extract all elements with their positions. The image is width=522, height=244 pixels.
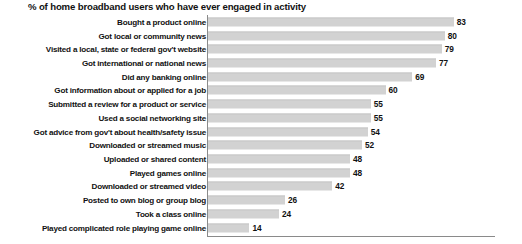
bar (208, 72, 412, 81)
bar (208, 141, 362, 150)
category-label: Got advice from gov't about health/safet… (34, 127, 206, 136)
category-label: Submitted a review for a product or serv… (48, 100, 206, 109)
bar (208, 127, 368, 136)
bar (208, 45, 442, 54)
chart-title: % of home broadband users who have ever … (28, 1, 306, 12)
bar-row: Got international or national news77 (0, 56, 522, 70)
bar-fill (208, 17, 454, 26)
bar (208, 196, 285, 205)
bar-row: Played complicated role playing game onl… (0, 221, 522, 235)
category-label: Posted to own blog or group blog (83, 196, 206, 205)
bar-value-label: 77 (439, 58, 448, 68)
bar-value-label: 48 (353, 168, 362, 178)
bar-row: Used a social networking site55 (0, 111, 522, 125)
bar-row: Downloaded or streamed music52 (0, 138, 522, 152)
category-label: Downloaded or streamed video (92, 182, 206, 191)
bar-value-label: 52 (365, 140, 374, 150)
bar-fill (208, 31, 445, 40)
bar-row: Downloaded or streamed video42 (0, 180, 522, 194)
bar-row: Did any banking online69 (0, 70, 522, 84)
bar (208, 223, 249, 232)
bar-fill (208, 223, 249, 232)
y-axis-line (207, 15, 208, 236)
bar-row: Got local or community news80 (0, 29, 522, 43)
bar-row: Got advice from gov't about health/safet… (0, 125, 522, 139)
bar-row: Played games online48 (0, 166, 522, 180)
category-label: Got information about or applied for a j… (54, 86, 206, 95)
bar-row: Posted to own blog or group blog26 (0, 193, 522, 207)
bar-fill (208, 141, 362, 150)
category-label: Did any banking online (122, 72, 206, 81)
bar-value-label: 55 (374, 99, 383, 109)
bar-fill (208, 127, 368, 136)
category-label: Used a social networking site (98, 113, 206, 122)
category-label: Bought a product online (117, 17, 206, 26)
bar-fill (208, 113, 371, 122)
category-label: Got local or community news (99, 31, 206, 40)
x-axis-line (207, 236, 495, 237)
bar-value-label: 83 (457, 17, 466, 27)
bar-value-label: 79 (445, 44, 454, 54)
bar-value-label: 48 (353, 154, 362, 164)
bar-value-label: 55 (374, 113, 383, 123)
bar (208, 182, 332, 191)
category-label: Played games online (130, 168, 206, 177)
bar-row: Bought a product online83 (0, 15, 522, 29)
category-label: Uploaded or shared content (104, 155, 206, 164)
bar-value-label: 69 (415, 72, 424, 82)
bar-value-label: 42 (335, 181, 344, 191)
bar-fill (208, 59, 436, 68)
bar-fill (208, 168, 350, 177)
bar-fill (208, 72, 412, 81)
bar (208, 86, 386, 95)
bar-fill (208, 196, 285, 205)
bar-value-label: 80 (448, 31, 457, 41)
bar (208, 31, 445, 40)
bar-row: Got information about or applied for a j… (0, 84, 522, 98)
bar-fill (208, 86, 386, 95)
bar-value-label: 26 (288, 195, 297, 205)
bar (208, 59, 436, 68)
bar-row: Visited a local, state or federal gov't … (0, 42, 522, 56)
bar-fill (208, 45, 442, 54)
bar-row: Uploaded or shared content48 (0, 152, 522, 166)
bar-row: Took a class online24 (0, 207, 522, 221)
plot-area: Bought a product online83Got local or co… (0, 15, 522, 237)
category-label: Played complicated role playing game onl… (42, 223, 206, 232)
bar-fill (208, 155, 350, 164)
bar-row: Submitted a review for a product or serv… (0, 97, 522, 111)
bar-chart: % of home broadband users who have ever … (0, 0, 522, 244)
category-label: Got international or national news (82, 59, 206, 68)
bar (208, 209, 279, 218)
category-label: Took a class online (136, 209, 206, 218)
bar-value-label: 60 (389, 85, 398, 95)
bar-value-label: 14 (252, 223, 261, 233)
bar (208, 113, 371, 122)
bar (208, 155, 350, 164)
bar-fill (208, 182, 332, 191)
bar (208, 168, 350, 177)
bar-value-label: 54 (371, 127, 380, 137)
category-label: Visited a local, state or federal gov't … (46, 45, 206, 54)
bar-value-label: 24 (282, 209, 291, 219)
category-label: Downloaded or streamed music (89, 141, 206, 150)
bar-fill (208, 209, 279, 218)
bar (208, 17, 454, 26)
bar-fill (208, 100, 371, 109)
bar (208, 100, 371, 109)
